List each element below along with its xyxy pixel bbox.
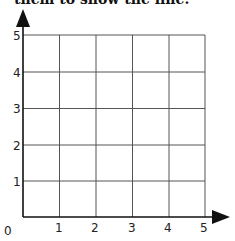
origin-label: 0: [4, 224, 12, 238]
y-tick-2: 2: [13, 139, 21, 153]
x-tick-1: 1: [55, 221, 63, 235]
x-axis-arrow-icon: [212, 210, 230, 224]
grid-lines: [23, 35, 205, 217]
x-tick-5: 5: [200, 221, 208, 235]
y-tick-3: 3: [13, 102, 21, 116]
axes: [23, 22, 216, 217]
x-tick-3: 3: [128, 221, 136, 235]
x-tick-4: 4: [164, 221, 172, 235]
x-tick-2: 2: [91, 221, 99, 235]
y-tick-5: 5: [13, 29, 21, 43]
y-tick-4: 4: [13, 66, 21, 80]
coordinate-grid: 5 4 3 2 1 0 1 2 3 4 5: [0, 0, 235, 241]
y-axis-arrow-icon: [16, 9, 30, 27]
y-tick-1: 1: [13, 175, 21, 189]
